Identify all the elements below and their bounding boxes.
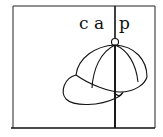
word-picture-card: c a p — [0, 0, 163, 137]
cap-icon — [0, 0, 163, 137]
